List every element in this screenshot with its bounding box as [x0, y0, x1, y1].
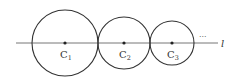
line-label-l: l	[221, 38, 224, 49]
tangent-circles-diagram: C1 C2 C3 ··· l	[0, 0, 234, 84]
label-c2: C2	[119, 49, 131, 62]
center-point-c1	[63, 41, 66, 44]
label-c1: C1	[60, 49, 72, 62]
center-point-c2	[122, 41, 125, 44]
label-c3: C3	[167, 49, 179, 62]
center-point-c3	[170, 41, 173, 44]
ellipsis: ···	[199, 32, 207, 41]
